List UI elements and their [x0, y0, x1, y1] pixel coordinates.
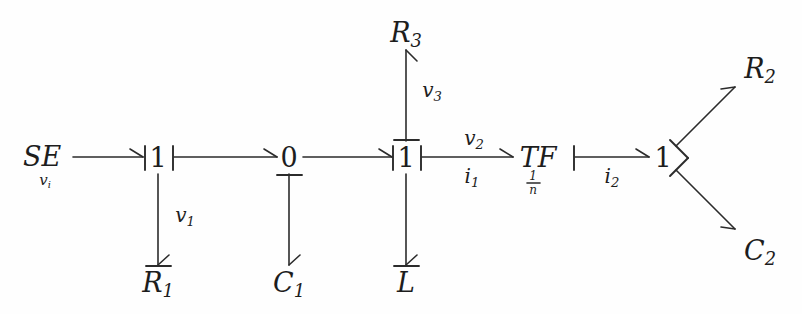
bond-0-to-c1: [277, 174, 302, 265]
element-l-label: L: [396, 267, 415, 298]
bond-label-i2: i2: [605, 164, 620, 190]
bond-label-v2: v2: [464, 126, 484, 152]
junction-1b-label: 1: [397, 142, 414, 173]
bond-1a-to-0: [173, 146, 277, 170]
source-effort-label: SE: [23, 141, 61, 172]
bond-label-v3: v3: [422, 78, 442, 104]
transformer-modulus-numerator: 1: [529, 169, 537, 183]
junction-1a-label: 1: [149, 142, 166, 173]
element-r1-label: R1: [141, 267, 174, 301]
transformer-modulus-denominator: n: [529, 183, 537, 197]
element-r2-label: R2: [743, 53, 776, 87]
element-r3-label: R3: [389, 17, 422, 51]
bond-se-to-1a: [73, 146, 145, 170]
transformer-label: TF: [520, 142, 558, 173]
element-c1-label: C1: [273, 267, 305, 301]
junction-0-label: 0: [280, 142, 297, 173]
bond-1a-to-r1: [146, 174, 171, 266]
element-c2-label: C2: [744, 235, 776, 269]
bond-label-v1: v1: [175, 203, 195, 229]
source-subscript-label: vi: [39, 171, 51, 190]
bond-0-to-1b: [303, 146, 393, 170]
bond-tf-to-1c: [574, 146, 649, 170]
bond-graph-diagram: SE vi 1 0 1 TF 1 n 1 R1 C1 L R3 R2 C2 v1…: [0, 0, 802, 314]
bond-label-i1: i1: [465, 164, 480, 190]
bond-1c-to-c2: [670, 158, 735, 229]
bond-1c-to-r2: [670, 87, 735, 158]
bond-1b-to-r3: [394, 50, 419, 141]
junction-1c-label: 1: [654, 142, 671, 173]
bond-1b-to-l: [394, 174, 419, 266]
bond-graph-canvas: SE vi 1 0 1 TF 1 n 1 R1 C1 L R3 R2 C2 v1…: [0, 0, 802, 314]
